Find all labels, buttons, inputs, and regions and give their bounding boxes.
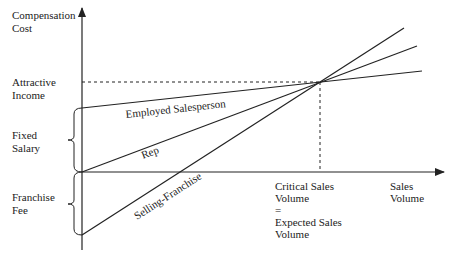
critical-sales-volume-label: Critical Sales Volume = Expected Sales V… — [275, 180, 342, 240]
fixed-salary-brace — [68, 108, 82, 172]
attractive-income-line-1: Attractive — [12, 76, 56, 89]
selling-franchise-line — [82, 28, 404, 235]
attractive-income-line-2: Income — [12, 89, 56, 102]
attractive-income-label: Attractive Income — [12, 76, 56, 102]
fixed-salary-line-1: Fixed — [12, 129, 40, 142]
franchise-fee-label: Franchise Fee — [12, 191, 55, 217]
employed-salesperson-line — [82, 71, 422, 108]
x-axis-label-line-1: Sales — [390, 180, 424, 192]
y-axis-label-line-1: Compensation — [12, 9, 76, 22]
franchise-fee-brace — [68, 172, 82, 235]
franchise-fee-line-1: Franchise — [12, 191, 55, 204]
compensation-diagram: Employed Salesperson Rep Selling-Franchi… — [0, 0, 454, 258]
y-axis-label: Compensation Cost — [12, 9, 76, 35]
franchise-fee-line-2: Fee — [12, 204, 55, 217]
y-axis-label-line-2: Cost — [12, 22, 76, 35]
fixed-salary-label: Fixed Salary — [12, 129, 40, 155]
x-axis-label-line-2: Volume — [390, 192, 424, 204]
critical-label-line-3: = — [275, 204, 342, 216]
critical-label-line-2: Volume — [275, 192, 342, 204]
critical-label-line-5: Volume — [275, 228, 342, 240]
x-axis-label: Sales Volume — [390, 180, 424, 204]
critical-label-line-1: Critical Sales — [275, 180, 342, 192]
critical-label-line-4: Expected Sales — [275, 216, 342, 228]
rep-label: Rep — [139, 143, 160, 161]
fixed-salary-line-2: Salary — [12, 142, 40, 155]
employed-salesperson-label: Employed Salesperson — [125, 97, 227, 120]
